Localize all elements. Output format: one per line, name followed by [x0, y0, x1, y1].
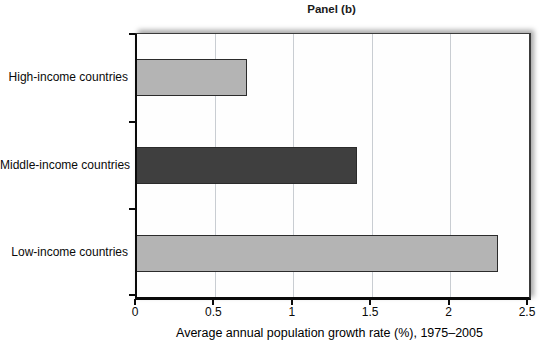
x-tick-label: 1.5 [355, 305, 385, 319]
y-axis-tick [129, 294, 135, 296]
x-tick-label: 0 [120, 305, 150, 319]
x-tick-label: 1 [277, 305, 307, 319]
plot-area [135, 33, 531, 300]
y-axis-tick [129, 208, 135, 210]
y-axis-tick [129, 121, 135, 123]
x-tick-label: 2 [434, 305, 464, 319]
category-label: High-income countries [0, 69, 128, 85]
bar [137, 147, 357, 184]
category-label: Middle-income countries [0, 157, 128, 173]
x-tick-label: 2.5 [512, 305, 542, 319]
chart-title: Panel (b) [135, 3, 528, 15]
category-label: Low-income countries [0, 244, 128, 260]
x-tick-label: 0.5 [198, 305, 228, 319]
y-axis-tick [129, 33, 135, 35]
bar [137, 235, 498, 272]
bar [137, 59, 247, 96]
x-axis-label: Average annual population growth rate (%… [120, 326, 539, 340]
